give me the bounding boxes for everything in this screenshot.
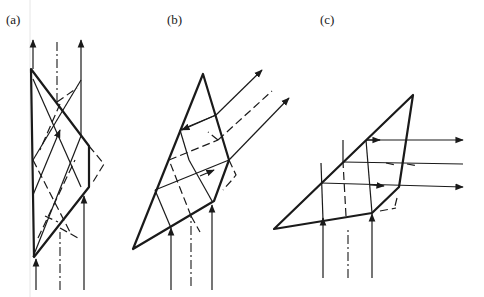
panel-a: (a) <box>6 12 104 290</box>
panel-b-label: (b) <box>167 12 182 27</box>
panel-c-internal-1 <box>321 163 323 220</box>
panel-a-internal-6 <box>38 160 75 238</box>
panel-c-dash-2 <box>407 164 418 166</box>
panel-c-label: (c) <box>320 12 334 27</box>
panel-b-prism <box>133 74 229 249</box>
panel-b-virtual-corner <box>223 160 236 190</box>
panel-a-virtual-corner <box>89 146 104 182</box>
panel-c-internal-2 <box>343 162 346 216</box>
panel-c: (c) <box>274 12 463 278</box>
panel-b-cross-3 <box>208 132 218 140</box>
panel-a-label: (a) <box>6 12 20 27</box>
panel-a-internal-4 <box>33 160 70 232</box>
panel-b-output-ray-3 <box>229 98 289 160</box>
panel-b: (b) <box>133 12 289 290</box>
diagram-canvas: (a) (b) <box>0 0 484 297</box>
panel-b-internal-1 <box>155 190 171 228</box>
panel-b-internal-3 <box>169 160 191 216</box>
panel-a-internal-8 <box>57 88 77 102</box>
panel-a-internal-7 <box>40 104 60 150</box>
panel-c-output-ray-3 <box>321 183 463 187</box>
panel-c-virtual-corner <box>380 198 397 211</box>
panel-b-internal-2 <box>189 160 212 201</box>
panel-a-internal-2 <box>33 136 81 257</box>
panel-a-prism <box>31 69 89 257</box>
panel-b-internal-5 <box>191 216 200 232</box>
panel-b-output-ray-1 <box>216 70 262 115</box>
panel-b-cross-arrow <box>182 115 216 130</box>
panel-c-internal-3 <box>366 140 372 213</box>
panel-a-internal-3 <box>33 80 81 160</box>
panel-b-output-ray-2 <box>218 91 272 140</box>
